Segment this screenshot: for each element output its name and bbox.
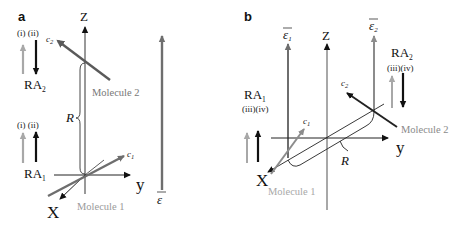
separation-brace-tip-b	[340, 141, 348, 151]
molecule2-label-b: Molecule 2	[401, 124, 449, 135]
panel-b: b Z ε1 ε2 y X R c1 Molecule 1 c2 Molecul…	[242, 9, 449, 210]
c1-label-b: c1	[303, 116, 310, 127]
x-axis-label-a: X	[47, 203, 59, 222]
z-axis-label-b: Z	[322, 28, 330, 43]
separation-label-b: R	[340, 153, 349, 168]
field1-label-b: ε1	[283, 27, 292, 43]
z-axis-label-a: Z	[80, 9, 88, 24]
molecule1-dipole-a	[48, 156, 124, 196]
y-axis-label-a: y	[136, 175, 145, 194]
field2-label-b: ε2	[369, 18, 378, 34]
ra2-cases-b: (iii)(iv)	[387, 63, 414, 73]
c2-label-a: c2	[46, 34, 54, 45]
molecule1-label-a: Molecule 1	[77, 201, 125, 212]
ra1-cases-b: (iii)(iv)	[242, 104, 269, 114]
panel-a-label: a	[18, 9, 26, 24]
separation-label-a: R	[65, 110, 74, 125]
separation-brace-a	[76, 63, 85, 174]
panel-a: a Z y X c1 Molecule 1 c2 Molecule 2 R (i…	[17, 9, 166, 222]
ra1-label-a: RA1	[24, 166, 46, 183]
separation-brace-b	[288, 112, 374, 166]
dipole-interaction-diagram: a Z y X c1 Molecule 1 c2 Molecule 2 R (i…	[0, 0, 463, 227]
ra2-cases-a: (i) (ii)	[17, 28, 39, 38]
panel-b-label: b	[244, 9, 252, 24]
ra1-label-b: RA1	[244, 87, 266, 104]
x-axis-label-b: X	[256, 171, 268, 190]
ra2-label-b: RA2	[391, 45, 413, 62]
ra2-label-a: RA2	[24, 77, 46, 94]
field-label-a: ε	[157, 192, 163, 207]
y-axis-label-b: y	[396, 138, 405, 157]
molecule2-dipole-b	[347, 93, 397, 127]
ra1-cases-a: (i) (ii)	[17, 120, 39, 130]
c2-label-b: c2	[341, 78, 349, 89]
c1-label-a: c1	[127, 149, 134, 160]
molecule1-label-b: Molecule 1	[268, 186, 316, 197]
molecule2-dipole-a	[58, 41, 110, 80]
molecule2-label-a: Molecule 2	[92, 87, 140, 98]
